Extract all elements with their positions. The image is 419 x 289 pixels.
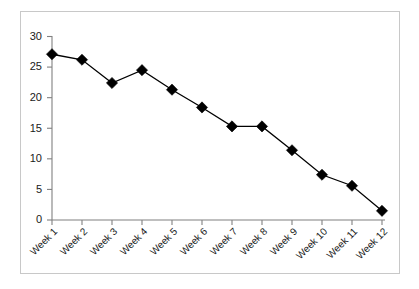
series-line [52, 54, 382, 211]
y-tick-label: 30 [30, 30, 42, 42]
data-point-marker [106, 77, 117, 88]
x-tick-label: Week 3 [88, 225, 120, 257]
x-tick-label: Week 8 [238, 225, 270, 257]
chart-container: 051015202530 Week 1Week 2Week 3Week 4Wee… [0, 0, 419, 289]
x-tick-label: Week 7 [208, 225, 240, 257]
data-series [46, 49, 387, 217]
y-tick-label: 10 [30, 152, 42, 164]
y-axis-ticks [47, 37, 52, 221]
line-chart-plot: 051015202530 Week 1Week 2Week 3Week 4Wee… [0, 0, 419, 289]
y-tick-label: 15 [30, 122, 42, 134]
data-point-marker [226, 121, 237, 132]
y-tick-label: 5 [36, 183, 42, 195]
data-point-marker [196, 102, 207, 113]
x-tick-label: Week 12 [354, 225, 390, 261]
data-point-marker [46, 49, 57, 60]
x-tick-label: Week 4 [118, 225, 150, 257]
x-tick-label: Week 6 [178, 225, 210, 257]
x-tick-label: Week 5 [148, 225, 180, 257]
x-tick-label: Week 1 [28, 225, 60, 257]
y-axis-tick-labels: 051015202530 [30, 30, 42, 226]
data-point-marker [136, 65, 147, 76]
y-tick-label: 20 [30, 91, 42, 103]
x-axis: Week 1Week 2Week 3Week 4Week 5Week 6Week… [28, 220, 390, 261]
y-tick-label: 0 [36, 213, 42, 225]
x-axis-tick-labels: Week 1Week 2Week 3Week 4Week 5Week 6Week… [28, 225, 390, 261]
y-tick-label: 25 [30, 60, 42, 72]
y-axis: 051015202530 [30, 30, 52, 226]
x-axis-ticks [52, 220, 382, 225]
series-markers [46, 49, 387, 217]
x-tick-label: Week 10 [294, 225, 330, 261]
data-point-marker [76, 54, 87, 65]
data-point-marker [166, 84, 177, 95]
x-tick-label: Week 2 [58, 225, 90, 257]
